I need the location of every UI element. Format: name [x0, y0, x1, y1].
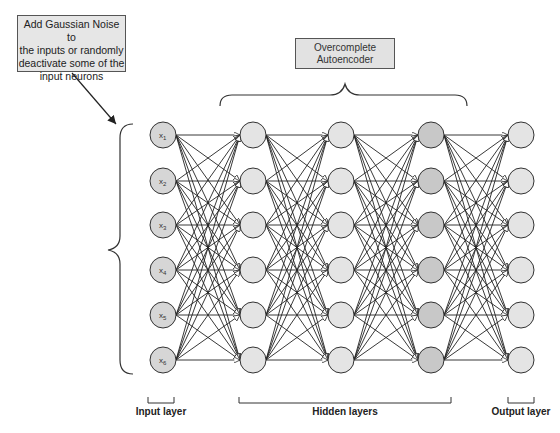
hidden-layers-label: Hidden layers	[295, 406, 395, 417]
autoencoder-brace-icon	[220, 84, 467, 106]
output-neuron	[508, 122, 534, 148]
hidden-neuron	[328, 122, 354, 148]
output-neuron	[508, 168, 534, 194]
hidden-neuron	[328, 212, 354, 238]
hidden-neuron	[240, 212, 266, 238]
output-layer-label: Output layer	[486, 406, 556, 417]
hidden-neuron	[240, 257, 266, 283]
hidden-neuron	[240, 168, 266, 194]
hidden-neuron	[418, 122, 444, 148]
output-layer-bracket	[508, 397, 534, 403]
hidden-neuron	[240, 302, 266, 328]
annotation-arrow	[72, 73, 116, 124]
network-diagram: x1x2x3x4x5x6	[0, 0, 560, 433]
output-neuron	[508, 257, 534, 283]
hidden-neuron	[418, 302, 444, 328]
hidden-neuron	[418, 257, 444, 283]
hidden-neuron	[240, 347, 266, 373]
hidden-neuron	[328, 302, 354, 328]
hidden-neuron	[328, 257, 354, 283]
hidden-neuron	[328, 168, 354, 194]
output-neuron	[508, 212, 534, 238]
hidden-neuron	[240, 122, 266, 148]
hidden-neuron	[418, 212, 444, 238]
input-layer-label: Input layer	[126, 406, 196, 417]
hidden-neuron	[328, 347, 354, 373]
input-layer-bracket	[148, 397, 174, 403]
hidden-neuron	[418, 168, 444, 194]
input-brace-icon	[108, 124, 133, 374]
hidden-neuron	[418, 347, 444, 373]
hidden-layers-bracket	[239, 397, 451, 403]
output-neuron	[508, 347, 534, 373]
output-neuron	[508, 302, 534, 328]
